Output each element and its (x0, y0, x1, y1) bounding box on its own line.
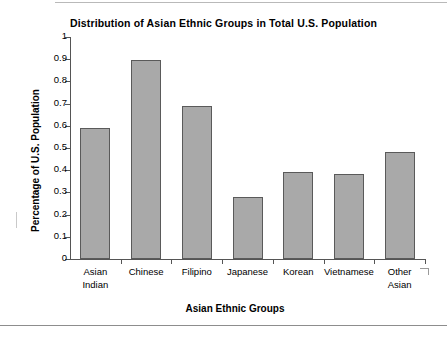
bar (131, 60, 161, 259)
x-category-label: Korean (273, 266, 324, 279)
y-tick-label: 0.5 (54, 141, 67, 152)
bar-chart-figure: Distribution of Asian Ethnic Groups in T… (0, 0, 447, 338)
bar (385, 152, 415, 259)
plot-area: 00.10.20.30.40.50.60.70.80.91 Asian Indi… (70, 37, 425, 260)
y-tick-label: 0.9 (54, 52, 67, 63)
bar (283, 172, 313, 259)
scan-edge-bottom (0, 325, 447, 326)
chart-title: Distribution of Asian Ethnic Groups in T… (0, 17, 447, 29)
x-tick-mark (374, 259, 375, 264)
x-tick-mark (324, 259, 325, 264)
x-category-label: Other Asian (374, 266, 425, 291)
x-tick-mark (121, 259, 122, 264)
x-category-label: Vietnamese (324, 266, 375, 279)
y-tick-label: 0 (62, 252, 67, 263)
x-tick-mark (171, 259, 172, 264)
x-tick-mark (425, 259, 426, 264)
scan-edge-top (55, 2, 447, 3)
bar (334, 174, 364, 259)
x-category-label: Filipino (171, 266, 222, 279)
y-tick-label: 1 (62, 30, 67, 41)
x-axis-title: Asian Ethnic Groups (40, 303, 430, 314)
y-tick-label: 0.2 (54, 208, 67, 219)
bar (233, 197, 263, 259)
bar (80, 128, 110, 259)
y-tick-label: 0.6 (54, 119, 67, 130)
x-axis-line (70, 259, 425, 260)
scan-edge-left (16, 212, 17, 228)
y-tick-label: 0.4 (54, 163, 67, 174)
y-tick-label: 0.7 (54, 97, 67, 108)
y-tick-label: 0.8 (54, 74, 67, 85)
x-tick-mark (222, 259, 223, 264)
y-axis-title: Percentage of U.S. Population (30, 51, 41, 271)
x-tick-mark (273, 259, 274, 264)
x-category-label: Japanese (222, 266, 273, 279)
x-category-label: Asian Indian (70, 266, 121, 291)
y-tick-label: 0.3 (54, 185, 67, 196)
y-axis-line (70, 37, 71, 260)
x-category-label: Chinese (121, 266, 172, 279)
bar (182, 106, 212, 259)
y-tick-label: 0.1 (54, 230, 67, 241)
